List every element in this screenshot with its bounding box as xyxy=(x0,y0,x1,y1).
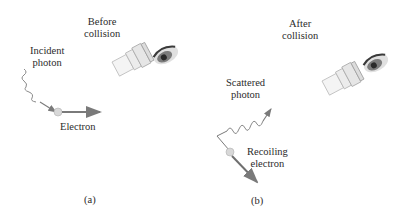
panel-before-collision: Before collision Incident photon Electro… xyxy=(0,0,199,221)
title-before: Before collision xyxy=(84,16,120,40)
caption-b: (b) xyxy=(251,195,263,207)
eye-icon xyxy=(151,42,181,68)
caption-a: (a) xyxy=(84,194,96,206)
electron-dot xyxy=(54,108,62,116)
electron-dot xyxy=(226,148,234,156)
recoiling-electron-label: Recoiling electron xyxy=(247,146,288,170)
microscope-icon xyxy=(321,61,365,98)
electron-label: Electron xyxy=(60,121,96,133)
panel-after-collision: After collision Scattered photon Recoili… xyxy=(199,0,398,221)
microscope-icon xyxy=(111,42,155,79)
incident-photon-label: Incident photon xyxy=(30,45,64,69)
title-after: After collision xyxy=(282,18,318,42)
eye-icon xyxy=(361,50,391,76)
incident-photon-wave xyxy=(22,69,36,102)
scattered-photon-wave xyxy=(227,121,263,134)
scattered-photon-label: Scattered photon xyxy=(226,77,265,101)
